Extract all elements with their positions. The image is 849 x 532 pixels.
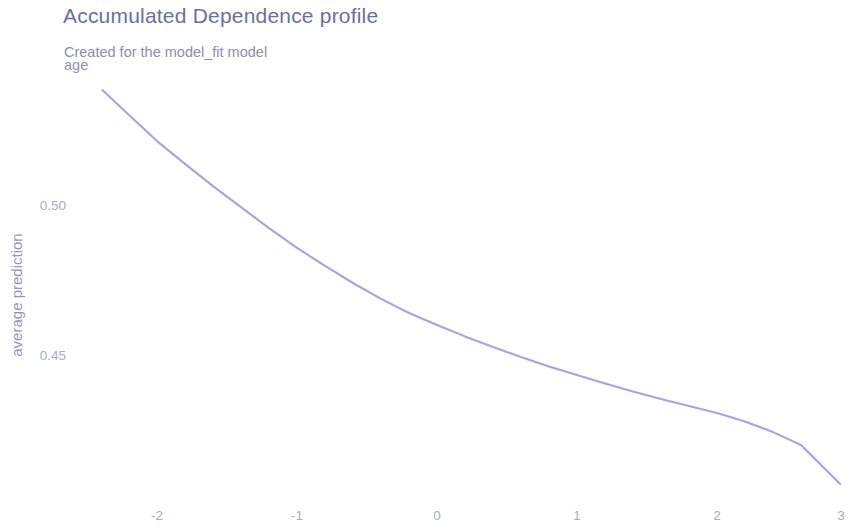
page-title: Accumulated Dependence profile: [63, 4, 378, 28]
y-axis-title: average prediction: [8, 130, 30, 460]
y-tick-label: 0.50: [26, 198, 66, 213]
x-tick-label: 2: [713, 508, 721, 523]
x-tick-label: -1: [291, 508, 303, 523]
ale-curve-age: [102, 90, 840, 484]
x-tick-label: -2: [151, 508, 163, 523]
facet-label-age: age: [64, 57, 88, 73]
chart-subtitle: Created for the model_fit model: [64, 44, 267, 60]
x-tick-label: 3: [837, 508, 845, 523]
x-tick-label: 1: [573, 508, 581, 523]
chart-canvas: [0, 0, 849, 532]
ale-plot-container: Accumulated Dependence profile Created f…: [0, 0, 849, 532]
y-tick-label: 0.45: [26, 348, 66, 363]
x-tick-label: 0: [433, 508, 441, 523]
